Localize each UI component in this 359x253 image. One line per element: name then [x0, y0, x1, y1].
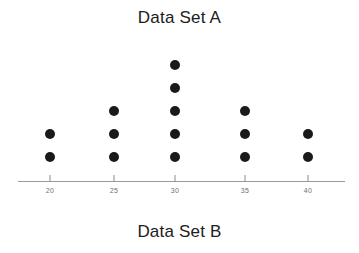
data-dot [240, 106, 250, 116]
dot-plot-figure: Data Set A 2025303540 Data Set B [0, 0, 359, 253]
data-dot [109, 129, 119, 139]
data-dot [45, 129, 55, 139]
x-axis-tick [114, 175, 115, 182]
chart-title-bottom: Data Set B [0, 222, 359, 242]
data-dot [170, 129, 180, 139]
x-axis-tick-label: 35 [225, 187, 265, 194]
x-axis-line [18, 181, 345, 182]
x-axis-tick-label: 30 [155, 187, 195, 194]
x-axis-tick-label: 20 [30, 187, 70, 194]
data-dot [170, 83, 180, 93]
data-dot [170, 60, 180, 70]
data-dot [240, 152, 250, 162]
data-dot [109, 106, 119, 116]
data-dot [303, 129, 313, 139]
x-axis-tick [308, 175, 309, 182]
x-axis-tick-label: 25 [94, 187, 134, 194]
data-dot [240, 129, 250, 139]
data-dot [303, 152, 313, 162]
plot-area: 2025303540 [0, 0, 359, 210]
data-dot [109, 152, 119, 162]
x-axis-tick [245, 175, 246, 182]
data-dot [170, 152, 180, 162]
data-dot [45, 152, 55, 162]
x-axis-tick-label: 40 [288, 187, 328, 194]
x-axis-tick [175, 175, 176, 182]
x-axis-tick [50, 175, 51, 182]
data-dot [170, 106, 180, 116]
